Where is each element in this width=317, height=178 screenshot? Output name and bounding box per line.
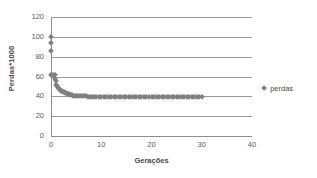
y-axis-tick-label: 40 [20, 92, 44, 100]
x-axis-tick-label: 40 [239, 141, 265, 149]
data-point [48, 40, 54, 46]
y-axis-tick-label: 100 [20, 33, 44, 41]
x-axis-tick-label: 30 [189, 141, 215, 149]
x-axis-tick-label: 0 [38, 141, 64, 149]
y-axis-tick-label: 80 [20, 53, 44, 61]
data-point [48, 34, 54, 40]
x-axis-tick-label: 10 [88, 141, 114, 149]
gridline [51, 116, 252, 117]
y-axis-title: Perdas*1000 [4, 0, 20, 136]
gridline [51, 77, 252, 78]
data-point [199, 94, 205, 100]
y-axis-title-label: Perdas*1000 [8, 45, 17, 91]
x-axis-line [51, 136, 252, 137]
x-axis-title: Gerações [51, 156, 252, 165]
y-axis-tick-label: 20 [20, 112, 44, 120]
legend-diamond-icon [261, 86, 267, 92]
y-axis-tick-label: 0 [20, 132, 44, 140]
scatter-chart: Perdas*1000 020406080100120 010203040 Ge… [0, 0, 317, 178]
gridline [51, 17, 252, 18]
y-axis-tick-label: 60 [20, 73, 44, 81]
data-point [48, 48, 54, 54]
chart-legend: perdas [262, 84, 293, 93]
plot-area [51, 17, 252, 136]
y-axis-tick-label: 120 [20, 13, 44, 21]
gridline [51, 37, 252, 38]
x-axis-tick-label: 20 [139, 141, 165, 149]
gridline [51, 57, 252, 58]
legend-item-label: perdas [270, 84, 293, 93]
